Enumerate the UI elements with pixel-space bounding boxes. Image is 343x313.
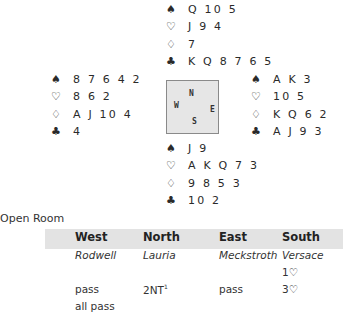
club-icon: ♣ [166, 53, 188, 70]
diamond-icon: ♢ [251, 106, 273, 123]
club-icon: ♣ [166, 192, 188, 209]
south-clubs: ♣10 2 [166, 192, 259, 209]
room-label: Open Room [0, 212, 64, 225]
club-icon: ♣ [51, 123, 73, 140]
spade-icon: ♠ [166, 1, 188, 18]
north-hand: ♠Q 10 5 ♡J 9 4 ♢7 ♣K Q 8 7 6 5 [166, 1, 274, 70]
diamond-icon: ♢ [166, 36, 188, 53]
header-north: North [143, 230, 180, 244]
east-clubs: ♣A J 9 3 [251, 123, 329, 140]
west-spades: ♠8 7 6 4 2 [51, 71, 142, 88]
spade-icon: ♠ [251, 71, 273, 88]
north-spades: ♠Q 10 5 [166, 1, 274, 18]
south-spades: ♠J 9 [166, 140, 259, 157]
bid: 3♡ [282, 283, 298, 295]
south-diamonds: ♢9 8 5 3 [166, 175, 259, 192]
club-icon: ♣ [251, 123, 273, 140]
bid: pass [75, 283, 99, 295]
spade-icon: ♠ [166, 140, 188, 157]
compass-north: N [189, 89, 194, 98]
east-hearts: ♡10 5 [251, 88, 329, 105]
player-south: Versace [282, 249, 323, 261]
header-south: South [282, 230, 320, 244]
bid-with-footnote: 2NT1 [143, 283, 168, 296]
north-clubs: ♣K Q 8 7 6 5 [166, 53, 274, 70]
player-west: Rodwell [75, 249, 116, 261]
header-east: East [219, 230, 247, 244]
diamond-icon: ♢ [51, 106, 73, 123]
compass-west: W [174, 101, 179, 110]
player-north: Lauria [143, 249, 176, 261]
south-hearts: ♡A K Q 7 3 [166, 157, 259, 174]
west-diamonds: ♢A J 10 4 [51, 106, 142, 123]
player-east: Meckstroth [219, 249, 277, 261]
east-hand: ♠A K 3 ♡10 5 ♢K Q 6 2 ♣A J 9 3 [251, 71, 329, 140]
west-hearts: ♡8 6 2 [51, 88, 142, 105]
header-west: West [75, 230, 107, 244]
footnote-marker: 1 [164, 283, 168, 290]
diamond-icon: ♢ [166, 175, 188, 192]
west-hand: ♠8 7 6 4 2 ♡8 6 2 ♢A J 10 4 ♣4 [51, 71, 142, 140]
south-hand: ♠J 9 ♡A K Q 7 3 ♢9 8 5 3 ♣10 2 [166, 140, 259, 209]
west-clubs: ♣4 [51, 123, 142, 140]
compass-box: N W E S [166, 80, 219, 134]
bid: 2NT [143, 284, 164, 296]
north-diamonds: ♢7 [166, 36, 274, 53]
bid: 1♡ [282, 266, 298, 278]
north-hearts: ♡J 9 4 [166, 18, 274, 35]
heart-icon: ♡ [166, 18, 188, 35]
bid: pass [219, 283, 243, 295]
heart-icon: ♡ [51, 88, 73, 105]
bid: all pass [75, 300, 115, 312]
compass-east: E [210, 105, 215, 114]
spade-icon: ♠ [51, 71, 73, 88]
heart-icon: ♡ [166, 157, 188, 174]
compass-south: S [192, 117, 197, 126]
east-spades: ♠A K 3 [251, 71, 329, 88]
east-diamonds: ♢K Q 6 2 [251, 106, 329, 123]
heart-icon: ♡ [251, 88, 273, 105]
